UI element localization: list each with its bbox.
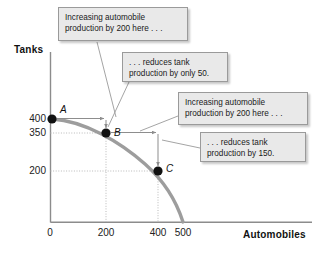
point-label-a: A <box>60 104 67 115</box>
point-label-c: C <box>166 163 173 174</box>
callout-reduce-tanks-50: . . . reduces tank production by only 50… <box>122 52 228 82</box>
callout-increase-autos-b-to-c: Increasing automobile production by 200 … <box>178 92 308 125</box>
y-tick-350: 350 <box>20 127 46 138</box>
point-b <box>101 128 110 137</box>
guide-lines <box>51 133 159 222</box>
y-axis-title: Tanks <box>14 44 43 55</box>
y-tick-200: 200 <box>20 165 46 176</box>
x-tick-200: 200 <box>93 227 119 238</box>
x-tick-500: 500 <box>170 227 196 238</box>
x-tick-400: 400 <box>145 227 171 238</box>
point-c <box>153 166 162 175</box>
callout-increase-autos-a-to-b: Increasing automobile production by 200 … <box>58 7 188 41</box>
y-tick-400: 400 <box>20 113 46 124</box>
x-axis-title: Automobiles <box>243 229 306 240</box>
x-tick-0: 0 <box>37 227 63 238</box>
point-label-b: B <box>114 127 121 138</box>
ppf-figure: Tanks Automobiles 400 350 200 0 200 400 … <box>0 0 315 256</box>
point-a <box>47 114 56 123</box>
callout-reduce-tanks-150: . . . reduces tank production by 150. <box>200 132 306 162</box>
